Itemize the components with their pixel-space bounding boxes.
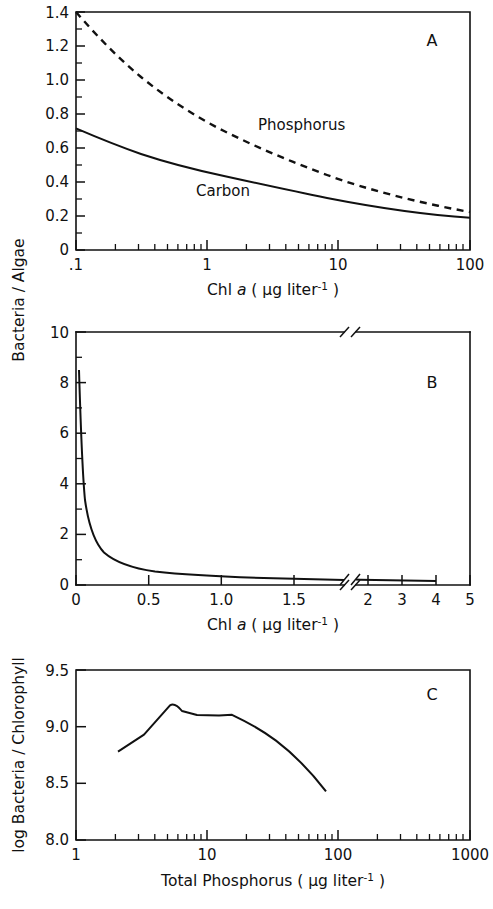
panel-b-curve-left	[79, 370, 344, 580]
panel-c-xaxis-label: Total Phosphorus ( µg liter-1 )	[160, 871, 385, 890]
panel-c-ytick-85: 8.5	[45, 774, 69, 792]
panel-c-letter: C	[426, 685, 437, 704]
panel-a-xtick-10: 10	[328, 256, 347, 274]
panel-b-ytick-10: 10	[50, 324, 69, 342]
scientific-figure: 0 0.2 0.4 0.6 0.8 1.0 1.2 1.4 .1 1 10 10…	[0, 0, 493, 909]
panel-c-yaxis-label: log Bacteria / Chlorophyll	[10, 657, 28, 852]
panel-c-xtick-1000: 1000	[451, 846, 489, 864]
panel-b-ytick-4: 4	[59, 475, 69, 493]
panel-a-ytick-06: 0.6	[45, 139, 69, 157]
panel-b-xtick-5: 5	[465, 591, 475, 609]
panel-a-ytick-02: 0.2	[45, 207, 69, 225]
panel-a-letter: A	[427, 31, 438, 50]
panel-c: 8.0 8.5 9.0 9.5 1 10 100 1000 C log Bact…	[10, 657, 489, 890]
panel-c-curve	[118, 705, 326, 792]
panel-a-ytick-0: 0	[59, 241, 69, 259]
panel-b-xtick-10: 1.0	[209, 591, 233, 609]
panel-a-ytick-10: 1.0	[45, 71, 69, 89]
panel-a: 0 0.2 0.4 0.6 0.8 1.0 1.2 1.4 .1 1 10 10…	[45, 4, 484, 299]
panel-b-xtick-2: 2	[363, 591, 373, 609]
panel-b-ytick-6: 6	[59, 424, 69, 442]
panel-b: 0 2 4 6 8 10 0 0.5 1.0 1.5 2 3 4 5	[50, 324, 475, 634]
panel-c-ytick-90: 9.0	[45, 718, 69, 736]
panel-b-ytick-2: 2	[59, 525, 69, 543]
panel-a-ytick-04: 0.4	[45, 173, 69, 191]
panel-c-y-ticks	[76, 670, 86, 840]
panel-a-x-ticks	[76, 240, 470, 250]
panel-c-ytick-80: 8.0	[45, 831, 69, 849]
panel-b-xtick-0: 0	[71, 591, 81, 609]
figure-svg: 0 0.2 0.4 0.6 0.8 1.0 1.2 1.4 .1 1 10 10…	[0, 0, 493, 909]
panel-b-xtick-3: 3	[397, 591, 407, 609]
panel-b-xtick-4: 4	[431, 591, 441, 609]
panel-b-xaxis-label: Chl a ( µg liter-1 )	[207, 615, 339, 634]
panel-b-xtick-15: 1.5	[282, 591, 306, 609]
panel-b-ytick-8: 8	[59, 374, 69, 392]
panel-c-xtick-100: 100	[324, 846, 353, 864]
panel-b-ytick-0: 0	[59, 576, 69, 594]
panel-b-xtick-05: 0.5	[137, 591, 161, 609]
panel-a-phosphorus-label: Phosphorus	[258, 116, 345, 134]
panel-a-ytick-14: 1.4	[45, 4, 69, 22]
panel-c-ytick-95: 9.5	[45, 662, 69, 680]
panel-c-x-ticks	[76, 830, 470, 840]
panel-b-letter: B	[427, 373, 438, 392]
panel-b-y-ticks	[76, 332, 86, 585]
panel-a-ytick-08: 0.8	[45, 105, 69, 123]
panel-a-ytick-12: 1.2	[45, 37, 69, 55]
panel-b-curve-right	[356, 580, 436, 581]
panel-c-xtick-1: 1	[71, 846, 81, 864]
panel-c-frame	[76, 670, 470, 840]
panel-a-xtick-01: .1	[69, 256, 83, 274]
panel-a-xtick-100: 100	[456, 256, 485, 274]
shared-yaxis-label-ab: Bacteria / Algae	[10, 238, 28, 361]
panel-a-carbon-label: Carbon	[196, 182, 250, 200]
panel-a-xtick-1: 1	[202, 256, 212, 274]
panel-a-xaxis-label: Chl a ( µg liter-1 )	[207, 280, 339, 299]
panel-a-carbon-curve	[76, 128, 470, 217]
panel-c-xtick-10: 10	[197, 846, 216, 864]
panel-a-phosphorus-curve	[76, 12, 470, 212]
